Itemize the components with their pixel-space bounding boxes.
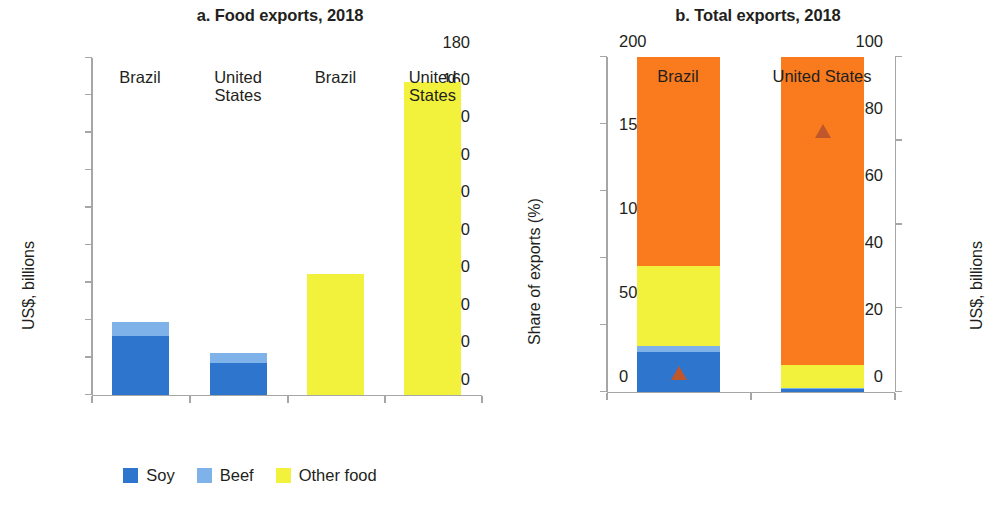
panel-a-y-axis-line (91, 58, 93, 395)
panel-b-ytick-label-left-0: 0 (874, 367, 883, 384)
panel-a-ytick-160 (85, 94, 92, 96)
panel-b-y-axis-label-left: Share of exports (%) (526, 198, 544, 345)
panel-a-xlabel-0: Brazil (91, 68, 189, 86)
legend-swatch-other-food (276, 468, 291, 483)
panel-food-exports: a. Food exports, 2018 US$, billions 0 20… (0, 0, 500, 526)
panel-b-ytick-right-200 (895, 56, 902, 58)
panel-b-ytick-left-0 (600, 391, 607, 393)
panel-b-ytick-label-left-60: 60 (865, 166, 883, 183)
panel-a-ytick-label-180: 180 (442, 33, 470, 50)
panel-a-xlabel-2: Brazil (287, 68, 384, 86)
panel-b-xlabel-1: United States (750, 67, 894, 85)
panel-b-ytick-right-100 (895, 223, 902, 225)
panel-a-ytick-20 (85, 356, 92, 358)
panel-a-xtick-4 (481, 396, 483, 403)
segment-other-food (307, 274, 364, 395)
bar-total-united-states[interactable] (781, 57, 864, 392)
panel-b-ytick-label-left-100: 100 (855, 32, 883, 49)
segment-other-food (637, 266, 720, 346)
segment-soy (210, 363, 267, 395)
panel-b-ytick-right-150 (895, 139, 902, 141)
segment-other-exports (637, 57, 720, 266)
panel-b-ytick-label-right-0: 0 (619, 367, 628, 384)
legend-swatch-soy (123, 468, 138, 483)
panel-b-xtick-0 (606, 393, 608, 400)
panel-b-xlabel-0: Brazil (606, 67, 750, 85)
bar-food-brazil-soybeef[interactable] (112, 322, 169, 395)
panel-a-xtick-1 (189, 396, 191, 403)
panel-b-ytick-left-60 (600, 190, 607, 192)
figure-exports-2018: a. Food exports, 2018 US$, billions 0 20… (0, 0, 996, 526)
legend-item-soy[interactable]: Soy (123, 466, 174, 485)
bar-food-brazil-otherfood[interactable] (307, 274, 364, 395)
panel-a-title: a. Food exports, 2018 (0, 6, 530, 25)
segment-other-food (404, 82, 461, 396)
panel-a-ytick-120 (85, 169, 92, 171)
panel-a-plot-area: 0 20 40 60 80 100 120 140 160 180 (92, 58, 482, 395)
panel-b-ytick-right-50 (895, 307, 902, 309)
panel-a-y-axis-label: US$, billions (20, 241, 38, 330)
legend-item-beef[interactable]: Beef (197, 466, 254, 485)
segment-soy (781, 389, 864, 392)
panel-a-xlabel-1: United States (189, 68, 287, 105)
panel-b-xtick-1 (750, 393, 752, 400)
panel-b-y-axis-line-left (606, 57, 608, 392)
panel-b-ytick-label-left-80: 80 (865, 99, 883, 116)
panel-b-ytick-left-100 (600, 56, 607, 58)
panel-b-ytick-right-0 (895, 391, 902, 393)
panel-a-ytick-140 (85, 131, 92, 133)
segment-beef (210, 353, 267, 363)
panel-b-ytick-left-20 (600, 324, 607, 326)
segment-soy (112, 336, 169, 396)
panel-b-ytick-label-right-50: 50 (619, 283, 637, 300)
legend-item-other-food[interactable]: Other food (276, 466, 377, 485)
segment-other-exports (781, 57, 864, 365)
panel-b-ytick-label-left-20: 20 (865, 300, 883, 317)
legend-label-other-food: Other food (299, 466, 377, 485)
panel-b-ytick-label-left-40: 40 (865, 233, 883, 250)
segment-beef (112, 322, 169, 336)
panel-a-ytick-label-0: 0 (461, 370, 470, 387)
legend-label-soy: Soy (146, 466, 174, 485)
marker-high-tech-united-states (815, 124, 831, 138)
legend-label-beef: Beef (220, 466, 254, 485)
panel-a-ytick-180 (85, 57, 92, 59)
panel-a-xtick-0 (91, 396, 93, 403)
panel-a-ytick-0 (85, 394, 92, 396)
marker-high-tech-brazil (671, 366, 687, 380)
panel-b-ytick-label-right-200: 200 (619, 32, 647, 49)
segment-other-food (781, 365, 864, 388)
panel-b-title: b. Total exports, 2018 (500, 6, 996, 25)
panel-b-plot-area: 0 20 40 60 80 100 0 50 100 150 200 (607, 57, 895, 392)
panel-b-xtick-2 (894, 393, 896, 400)
panel-a-ytick-60 (85, 281, 92, 283)
panel-b-ytick-left-40 (600, 257, 607, 259)
panel-a-ytick-40 (85, 319, 92, 321)
bar-food-us-soybeef[interactable] (210, 353, 267, 395)
legend-swatch-beef (197, 468, 212, 483)
panel-a-xtick-2 (287, 396, 289, 403)
panel-a-legend: Soy Beef Other food (0, 466, 500, 485)
bar-food-us-otherfood[interactable] (404, 82, 461, 396)
panel-b-ytick-left-80 (600, 123, 607, 125)
panel-a-ytick-100 (85, 206, 92, 208)
bar-total-brazil[interactable] (637, 57, 720, 392)
panel-a-xlabel-3: United States (384, 68, 481, 105)
panel-total-exports: b. Total exports, 2018 Share of exports … (500, 0, 996, 526)
panel-b-y-axis-label-right: US$, billions (968, 241, 986, 330)
panel-a-ytick-80 (85, 244, 92, 246)
panel-a-xtick-3 (384, 396, 386, 403)
panel-b-y-axis-line-right (895, 57, 897, 392)
